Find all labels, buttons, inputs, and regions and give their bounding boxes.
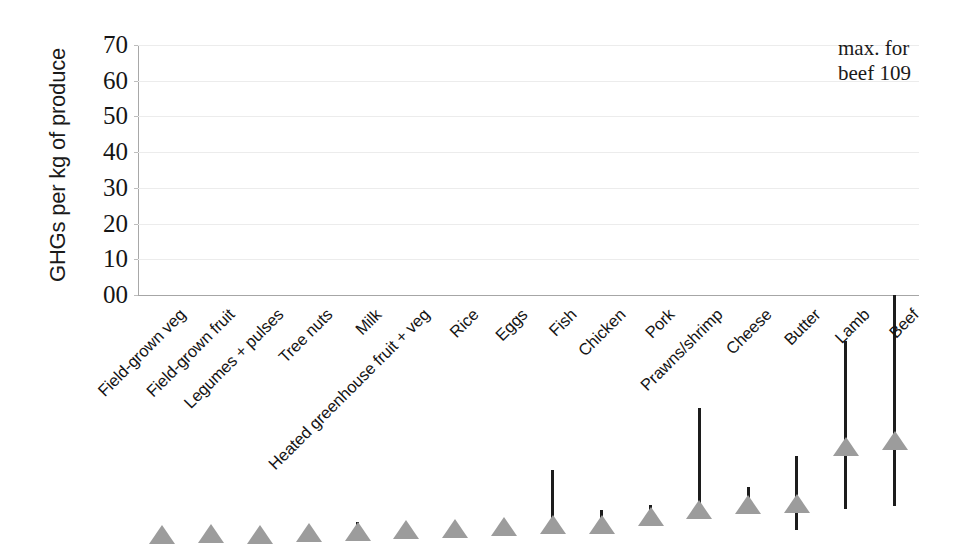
x-axis-label: Cheese [722,305,775,358]
x-axis-label: Eggs [492,305,532,345]
x-axis-label: Fish [545,305,580,340]
x-axis-label: Beef [885,305,922,342]
x-axis-label: Milk [351,305,385,339]
x-axis-label: Rice [446,305,482,341]
max-beef-annotation: max. for beef 109 [838,36,911,86]
x-axis-label: Heated greenhouse fruit + veg [265,305,434,474]
x-axis-label: Pork [641,305,678,342]
x-axis-label: Chicken [574,305,629,360]
x-axis-label: Butter [780,305,824,349]
x-axis-label: Lamb [831,305,873,347]
x-axis-labels: Field-grown vegField-grown fruitLegumes … [0,0,959,553]
ghg-chart: GHGs per kg of produce 0010203040506070 … [0,0,959,553]
